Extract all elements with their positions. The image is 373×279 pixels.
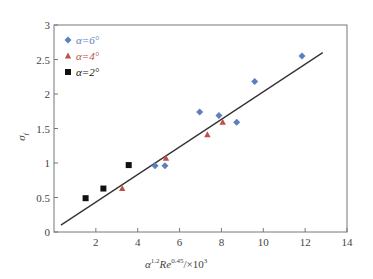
fit-line xyxy=(61,53,323,226)
diamond-marker-icon xyxy=(215,112,222,119)
x-axis-title: α1.2Re0.45/×103 xyxy=(145,257,208,270)
diamond-marker-icon xyxy=(196,108,203,115)
legend-label: α=2° xyxy=(76,66,100,78)
diamond-marker-icon xyxy=(299,53,306,60)
triangle-marker-icon xyxy=(204,131,210,137)
series-triangle xyxy=(119,119,226,191)
x-tick-label: 12 xyxy=(300,236,311,248)
y-tick-label: 2.5 xyxy=(36,54,50,66)
x-tick-label: 4 xyxy=(135,236,141,248)
y-tick-label: 1 xyxy=(45,157,51,169)
diamond-marker-icon xyxy=(233,119,240,126)
y-axis-ticks: 00.511.522.53 xyxy=(36,19,58,238)
x-tick-label: 6 xyxy=(177,236,183,248)
legend-item: α=4° xyxy=(65,50,100,62)
y-tick-label: 2 xyxy=(45,88,51,100)
diamond-marker-icon xyxy=(152,162,159,169)
y-tick-label: 0 xyxy=(45,226,51,238)
square-marker-icon xyxy=(126,162,132,168)
legend-label: α=6° xyxy=(76,34,100,46)
y-tick-label: 3 xyxy=(45,19,51,31)
x-tick-label: 2 xyxy=(93,236,99,248)
diamond-marker-icon xyxy=(251,78,258,85)
square-marker-icon xyxy=(83,195,89,201)
x-tick-label: 10 xyxy=(258,236,270,248)
square-marker-icon xyxy=(65,69,71,75)
diamond-marker-icon xyxy=(65,37,72,44)
series-diamond xyxy=(152,53,306,170)
fit-line-path xyxy=(61,53,323,226)
legend-item: α=6° xyxy=(65,34,100,46)
legend-label: α=4° xyxy=(76,50,100,62)
diamond-marker-icon xyxy=(161,162,168,169)
y-tick-label: 1.5 xyxy=(36,123,50,135)
scatter-chart: 2468101214 00.511.522.53 α=6°α=4°α=2° α1… xyxy=(0,0,373,279)
x-axis-ticks: 2468101214 xyxy=(93,228,353,248)
square-marker-icon xyxy=(100,186,106,192)
legend-item: α=2° xyxy=(65,66,100,78)
legend: α=6°α=4°α=2° xyxy=(65,34,100,78)
triangle-marker-icon xyxy=(65,53,71,59)
x-tick-label: 14 xyxy=(342,236,354,248)
y-tick-label: 0.5 xyxy=(36,192,50,204)
y-axis-title: σf xyxy=(15,132,30,140)
x-tick-label: 8 xyxy=(219,236,225,248)
data-points xyxy=(83,53,306,202)
